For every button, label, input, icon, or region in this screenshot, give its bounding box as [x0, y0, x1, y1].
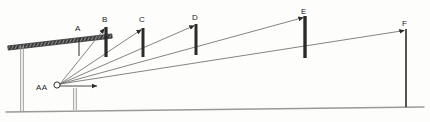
sight-ray-B — [60, 29, 105, 85]
pole-label-D: D — [192, 14, 198, 22]
diagram-canvas-container: AAABCDEF — [0, 0, 430, 122]
sight-rays-group — [60, 18, 405, 87]
sight-ray-F — [60, 31, 405, 85]
pole-label-E: E — [301, 8, 307, 16]
survey-diagram-svg — [0, 0, 430, 122]
sight-ray-E — [60, 18, 304, 85]
pole-label-A: A — [75, 25, 81, 33]
support-post-left — [21, 46, 24, 111]
ground-line-group — [6, 107, 424, 112]
pole-label-C: C — [139, 16, 145, 24]
support-post-mid — [74, 88, 77, 110]
origin-circle-marker — [54, 82, 60, 88]
origin-marker-group — [54, 82, 60, 88]
poles-group — [79, 16, 406, 107]
sight-ray-D — [60, 26, 195, 85]
pole-label-F: F — [402, 20, 407, 28]
ground — [6, 107, 424, 112]
origin-label-aa: AA — [36, 84, 47, 92]
pole-label-B: B — [102, 16, 108, 24]
